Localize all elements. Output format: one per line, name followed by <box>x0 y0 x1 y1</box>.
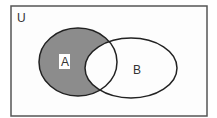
venn-diagram: U A B <box>0 0 217 118</box>
universe-label: U <box>17 11 26 25</box>
set-a-label: A <box>61 55 69 69</box>
set-b-label: B <box>133 63 141 77</box>
